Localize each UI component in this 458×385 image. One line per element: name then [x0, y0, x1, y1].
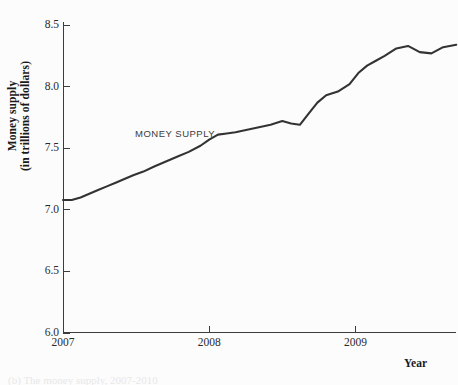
- y-axis-tick-label: 8.5: [33, 18, 59, 31]
- x-axis-title: Year: [404, 357, 427, 369]
- y-axis-tick-label-text: 6.5: [33, 264, 59, 276]
- y-axis-tick-label-text: 7.5: [33, 141, 59, 153]
- x-axis-tick-mark: [209, 326, 210, 332]
- y-axis-tick-mark: [64, 86, 70, 87]
- y-axis-tick-label-text: 8.0: [33, 80, 59, 92]
- series-annotation-money-supply: MONEY SUPPLY: [135, 128, 215, 139]
- x-axis-tick-mark: [355, 326, 356, 332]
- y-axis-tick-mark: [64, 25, 70, 26]
- y-axis-line: [63, 22, 64, 334]
- y-axis-tick-label-text: 7.0: [33, 203, 59, 215]
- x-axis-tick-label: 2008: [184, 336, 234, 348]
- x-axis-tick-mark: [63, 326, 64, 332]
- y-axis-tick-label: 7.0: [33, 203, 59, 216]
- x-axis-line: [63, 332, 456, 333]
- y-axis-title-line-1: Money supply: [6, 36, 19, 196]
- y-axis-tick-mark: [64, 271, 70, 272]
- figure-caption: (b) The money supply, 2007-2010: [8, 374, 158, 385]
- x-axis-tick-label: 2009: [330, 336, 380, 348]
- x-axis-tick-label: 2007: [38, 336, 88, 348]
- y-axis-tick-mark: [64, 209, 70, 210]
- y-axis-tick-mark: [64, 333, 70, 334]
- y-axis-title: Money supply (in trillions of dollars): [6, 36, 46, 196]
- y-axis-tick-label: 6.5: [33, 264, 59, 277]
- chart-plot-area: [0, 0, 458, 385]
- y-axis-tick-label: 7.5: [33, 141, 59, 154]
- y-axis-tick-mark: [64, 148, 70, 149]
- y-axis-title-line-2: (in trillions of dollars): [19, 36, 32, 196]
- money-supply-line: [63, 45, 456, 200]
- y-axis-tick-label: 8.0: [33, 80, 59, 93]
- money-supply-chart-figure: Money supply (in trillions of dollars) 6…: [0, 0, 458, 385]
- y-axis-tick-label-text: 8.5: [33, 18, 59, 30]
